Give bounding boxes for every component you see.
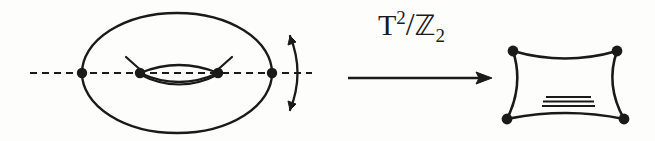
pillowcase-corner-dot-top-right bbox=[612, 46, 623, 57]
pillowcase-edge-bottom bbox=[507, 113, 624, 119]
left-panel-torus bbox=[30, 13, 312, 133]
pillowcase-edge-top bbox=[513, 51, 617, 59]
pillowcase-corner-dot-bottom-left bbox=[502, 114, 513, 125]
pillowcase-edge-right bbox=[612, 51, 624, 119]
figure-root: T2/ℤ2 bbox=[0, 0, 655, 141]
rotation-arrow-head-bottom bbox=[288, 101, 296, 110]
pillowcase-corner-dot-bottom-right bbox=[619, 114, 630, 125]
rotation-arrow-arc bbox=[290, 36, 298, 110]
fixed-point-dot-4 bbox=[267, 68, 277, 78]
rotation-arrow-head-top bbox=[288, 36, 296, 45]
fixed-point-dot-1 bbox=[77, 68, 87, 78]
torus-quotient-diagram bbox=[0, 0, 655, 141]
pillowcase-corner-dot-top-left bbox=[508, 46, 519, 57]
fixed-point-dot-3 bbox=[213, 68, 223, 78]
quotient-map-arrow bbox=[348, 72, 492, 84]
right-panel-pillowcase bbox=[502, 46, 630, 125]
pillowcase-edge-left bbox=[507, 51, 517, 119]
fixed-point-dot-2 bbox=[135, 68, 145, 78]
torus-inner-hole-upper-arc bbox=[140, 65, 218, 73]
